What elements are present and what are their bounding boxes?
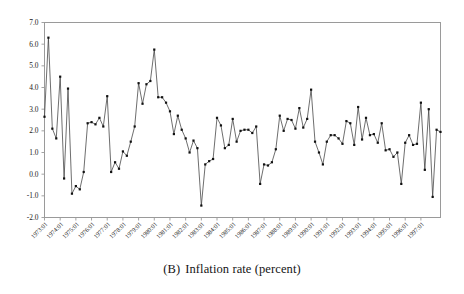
data-point-marker [432,196,434,198]
data-point-marker [408,134,410,136]
data-point-marker [302,126,304,128]
data-point-marker [161,96,163,98]
data-point-marker [149,80,151,82]
data-point-marker [353,144,355,146]
data-point-marker [98,117,100,119]
data-point-marker [220,124,222,126]
data-point-marker [314,141,316,143]
y-tick-label: 3.0 [29,105,39,114]
data-point-marker [110,171,112,173]
y-tick-label: 2.0 [29,126,39,135]
data-point-marker [224,147,226,149]
data-point-marker [259,183,261,185]
data-point-marker [165,102,167,104]
data-point-marker [243,129,245,131]
y-tick-label: 0.0 [29,170,39,179]
data-point-marker [392,156,394,158]
data-point-marker [67,87,69,89]
data-point-marker [373,133,375,135]
data-point-marker [192,139,194,141]
y-tick-label: -2.0 [27,213,39,222]
data-point-marker [47,37,49,39]
data-point-marker [439,131,441,133]
data-point-marker [247,129,249,131]
data-point-marker [59,76,61,78]
data-point-marker [118,168,120,170]
data-point-marker [263,163,265,165]
x-axis-tick-labels: 1973:011974:011975:011976:011977:011978:… [29,220,425,240]
data-point-marker [369,134,371,136]
data-point-marker [83,171,85,173]
data-point-marker [298,107,300,109]
data-point-marker [349,122,351,124]
data-point-marker [334,134,336,136]
data-point-marker [251,132,253,134]
data-point-marker [322,163,324,165]
data-point-marker [271,161,273,163]
y-tick-label: -1.0 [27,191,39,200]
data-point-marker [185,137,187,139]
data-point-marker [255,125,257,127]
data-point-marker [114,161,116,163]
inflation-rate-line-chart: 7.06.05.04.03.02.01.00.0-1.0-2.0 1973:01… [0,0,464,240]
data-point-marker [200,204,202,206]
caption-letter: (B) [163,262,180,276]
data-point-marker [134,125,136,127]
data-point-marker [157,96,159,98]
inflation-series-markers [43,37,441,207]
data-point-marker [428,108,430,110]
data-point-marker [43,116,45,118]
data-point-marker [388,148,390,150]
chart-plot-area: 7.06.05.04.03.02.01.00.0-1.0-2.0 1973:01… [0,0,464,240]
data-point-marker [228,144,230,146]
data-point-marker [239,130,241,132]
y-tick-label: 7.0 [29,18,39,27]
data-point-marker [130,141,132,143]
data-point-marker [377,142,379,144]
figure-panel-b: 7.06.05.04.03.02.01.00.0-1.0-2.0 1973:01… [0,0,464,294]
data-point-marker [51,128,53,130]
caption-text: Inflation rate (percent) [185,262,301,276]
data-point-marker [216,117,218,119]
data-point-marker [181,129,183,131]
data-point-marker [196,147,198,149]
data-point-marker [385,149,387,151]
x-tick-label: 1997:01 [406,220,426,240]
data-point-marker [79,188,81,190]
data-point-marker [126,155,128,157]
data-point-marker [345,120,347,122]
data-point-marker [330,134,332,136]
data-point-marker [138,82,140,84]
data-point-marker [71,193,73,195]
data-point-marker [63,177,65,179]
data-point-marker [310,89,312,91]
data-point-marker [396,151,398,153]
data-point-marker [420,102,422,104]
data-point-marker [286,118,288,120]
data-point-marker [177,115,179,117]
data-point-marker [404,142,406,144]
data-point-marker [153,48,155,50]
data-point-marker [188,151,190,153]
data-point-marker [326,141,328,143]
data-point-marker [122,150,124,152]
data-point-marker [424,169,426,171]
data-point-marker [341,143,343,145]
data-point-marker [212,158,214,160]
data-point-marker [90,121,92,123]
data-point-marker [337,137,339,139]
data-point-marker [294,128,296,130]
y-tick-label: 1.0 [29,148,39,157]
data-point-marker [279,115,281,117]
data-point-marker [435,129,437,131]
data-point-marker [55,137,57,139]
y-tick-label: 5.0 [29,61,39,70]
data-point-marker [275,148,277,150]
data-point-marker [141,103,143,105]
data-point-marker [306,118,308,120]
data-point-marker [318,151,320,153]
data-point-marker [361,138,363,140]
data-point-marker [412,144,414,146]
data-point-marker [357,106,359,108]
data-point-marker [173,133,175,135]
